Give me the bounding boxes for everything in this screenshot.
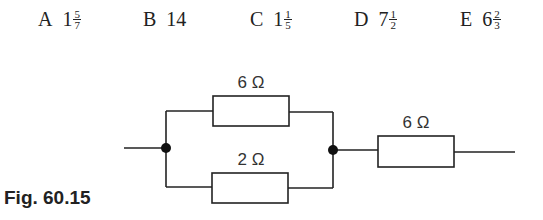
label-bottom-resistor: 2 Ω bbox=[238, 150, 265, 169]
figure-caption: Fig. 60.15 bbox=[4, 187, 91, 209]
resistor-bottom bbox=[212, 173, 288, 203]
resistor-top bbox=[213, 96, 289, 126]
junction-left bbox=[161, 143, 171, 153]
label-series-resistor: 6 Ω bbox=[403, 113, 430, 132]
junction-right bbox=[328, 145, 338, 155]
resistor-series bbox=[378, 136, 454, 167]
label-top-resistor: 6 Ω bbox=[238, 73, 265, 92]
